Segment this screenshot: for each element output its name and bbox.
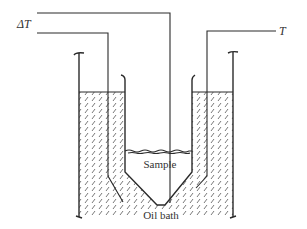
t-label: T <box>279 24 287 38</box>
dta-apparatus-diagram: ΔT T Sample Oil bath <box>0 0 307 229</box>
oil-bath-label: Oil bath <box>143 209 179 221</box>
sample-surface <box>125 150 192 152</box>
delta-t-label: ΔT <box>16 17 32 31</box>
sample-label: Sample <box>144 158 177 170</box>
sample-surface-2 <box>128 153 190 154</box>
oil-fill <box>79 92 233 217</box>
